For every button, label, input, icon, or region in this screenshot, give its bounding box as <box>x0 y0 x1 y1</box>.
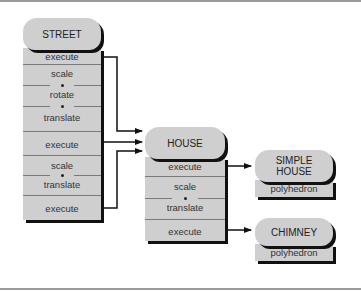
edge-street-execute3-house <box>104 151 142 208</box>
connector-lines <box>0 0 361 292</box>
edge-street-execute1-house <box>104 57 142 131</box>
